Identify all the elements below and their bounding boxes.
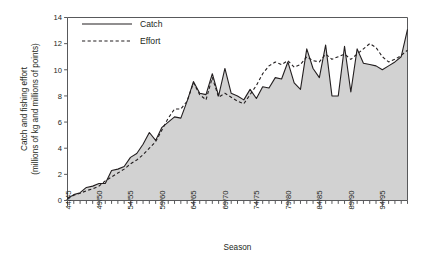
y-tick-label: 2: [58, 170, 62, 179]
x-tick-label: 49/50: [95, 190, 104, 209]
x-tick-label: 44/45: [64, 190, 73, 209]
legend-label-effort: Effort: [140, 36, 161, 46]
chart-figure: 0246810121444/4549/5054/5559/6064/6569/7…: [0, 0, 428, 265]
y-tick-label: 4: [58, 144, 62, 153]
x-tick-label: 94/95: [378, 190, 387, 209]
y-tick-label: 0: [58, 196, 62, 205]
y-tick-label: 10: [54, 66, 62, 75]
x-tick-label: 59/60: [158, 190, 167, 209]
x-tick-label: 79/80: [284, 190, 293, 209]
y-tick-label: 8: [58, 92, 62, 101]
x-tick-label: 84/85: [315, 190, 324, 209]
chart-canvas: 0246810121444/4549/5054/5559/6064/6569/7…: [0, 0, 428, 265]
x-tick-label: 74/75: [252, 190, 261, 209]
y-tick-label: 14: [54, 13, 62, 22]
x-tick-label: 64/65: [189, 190, 198, 209]
x-tick-label: 54/55: [126, 190, 135, 209]
legend-label-catch: Catch: [140, 19, 163, 29]
y-axis-title-line1: Catch and fishing effort: [20, 66, 29, 151]
y-tick-label: 6: [58, 118, 62, 127]
y-tick-label: 12: [54, 39, 62, 48]
x-tick-label: 69/70: [221, 190, 230, 209]
x-tick-label: 89/90: [347, 190, 356, 209]
y-axis-title-line2: (millions of kg and millions of points): [31, 43, 40, 175]
x-axis-title: Season: [224, 243, 252, 252]
